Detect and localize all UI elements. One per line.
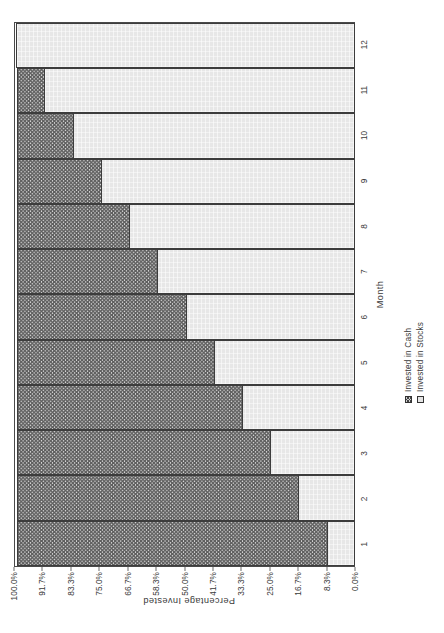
bar-column[interactable] [15, 114, 354, 159]
y-axis-tick-mark [355, 567, 356, 571]
y-axis-tick-label: 75.0% [95, 572, 104, 596]
bar-segment-invested-in-stocks[interactable] [242, 385, 355, 430]
legend: Invested in CashInvested in Stocks [404, 322, 425, 403]
bar-segment-invested-in-stocks[interactable] [44, 68, 355, 113]
y-axis-tick-mark [326, 567, 327, 571]
bar-column[interactable] [15, 385, 354, 430]
legend-item-label: Invested in Stocks [416, 322, 425, 392]
y-axis-tick-label: 58.3% [152, 572, 161, 596]
y-axis: 0.0%8.3%16.7%25.0%33.3%41.7%50.0%58.3%66… [14, 567, 355, 633]
bar-column[interactable] [15, 295, 354, 340]
bar-segment-invested-in-stocks[interactable] [16, 23, 355, 68]
chart-figure: 0.0%8.3%16.7%25.0%33.3%41.7%50.0%58.3%66… [0, 0, 444, 633]
legend-item[interactable]: Invested in Stocks [416, 322, 425, 403]
y-axis-title: Percentage Invested [39, 596, 339, 606]
bar-column[interactable] [15, 159, 354, 204]
bar-column[interactable] [15, 249, 354, 294]
y-axis-tick-mark [99, 567, 100, 571]
y-axis-tick-label: 50.0% [180, 572, 189, 596]
bar-segment-invested-in-cash[interactable] [17, 114, 74, 159]
y-axis-tick-label: 33.3% [237, 572, 246, 596]
bar-column[interactable] [15, 430, 354, 475]
plot-area [14, 22, 355, 567]
legend-swatch-icon [405, 396, 412, 403]
bar-column[interactable] [15, 23, 354, 68]
bars-layer [15, 23, 354, 566]
bar-segment-invested-in-cash[interactable] [17, 68, 45, 113]
bar-segment-invested-in-stocks[interactable] [214, 340, 355, 385]
y-axis-tick-mark [184, 567, 185, 571]
y-axis-tick-mark [156, 567, 157, 571]
y-axis-tick-label: 83.3% [66, 572, 75, 596]
y-axis-tick-mark [298, 567, 299, 571]
bar-segment-invested-in-stocks[interactable] [298, 476, 355, 521]
bar-segment-invested-in-cash[interactable] [17, 204, 130, 249]
y-axis-tick-mark [14, 567, 15, 571]
y-axis-tick-label: 25.0% [265, 572, 274, 596]
bar-segment-invested-in-cash[interactable] [17, 521, 328, 566]
bar-segment-invested-in-stocks[interactable] [186, 295, 356, 340]
legend-item[interactable]: Invested in Cash [404, 322, 413, 403]
y-axis-tick-label: 16.7% [294, 572, 303, 596]
rotated-figure-wrapper: 0.0%8.3%16.7%25.0%33.3%41.7%50.0%58.3%66… [0, 0, 444, 633]
y-axis-tick-mark [241, 567, 242, 571]
bar-column[interactable] [15, 476, 354, 521]
bar-column[interactable] [15, 68, 354, 113]
bar-column[interactable] [15, 521, 354, 566]
bar-column[interactable] [15, 340, 354, 385]
x-axis-title: Month [375, 22, 385, 567]
bar-segment-invested-in-stocks[interactable] [270, 430, 355, 475]
bar-segment-invested-in-cash[interactable] [17, 385, 243, 430]
legend-item-label: Invested in Cash [404, 328, 413, 392]
y-axis-tick-mark [70, 567, 71, 571]
bar-segment-invested-in-cash[interactable] [17, 430, 271, 475]
y-axis-tick-mark [269, 567, 270, 571]
bar-segment-invested-in-stocks[interactable] [327, 521, 355, 566]
bar-segment-invested-in-stocks[interactable] [157, 249, 355, 294]
x-axis: 123456789101112 Month [355, 22, 395, 567]
y-axis-tick-label: 91.7% [38, 572, 47, 596]
y-axis-tick-mark [42, 567, 43, 571]
y-axis-tick-label: 66.7% [123, 572, 132, 596]
y-axis-tick-label: 0.0% [351, 572, 360, 591]
bar-segment-invested-in-cash[interactable] [17, 295, 187, 340]
bar-segment-invested-in-cash[interactable] [17, 159, 102, 204]
y-axis-tick-mark [127, 567, 128, 571]
bar-segment-invested-in-stocks[interactable] [101, 159, 355, 204]
y-axis-tick-mark [212, 567, 213, 571]
bar-segment-invested-in-cash[interactable] [17, 340, 215, 385]
bar-segment-invested-in-cash[interactable] [17, 249, 158, 294]
y-axis-tick-label: 100.0% [10, 572, 19, 600]
y-axis-tick-label: 41.7% [208, 572, 217, 596]
bar-segment-invested-in-stocks[interactable] [129, 204, 355, 249]
legend-swatch-icon [417, 396, 424, 403]
bar-column[interactable] [15, 204, 354, 249]
bar-segment-invested-in-stocks[interactable] [73, 114, 355, 159]
bar-segment-invested-in-cash[interactable] [17, 476, 299, 521]
y-axis-tick-label: 8.3% [322, 572, 331, 591]
